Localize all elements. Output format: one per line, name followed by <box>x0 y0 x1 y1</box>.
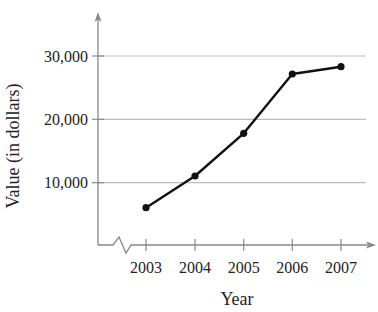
axis-break-icon <box>98 237 368 253</box>
data-point-2006 <box>289 70 296 77</box>
x-axis-title: Year <box>220 289 253 309</box>
y-axis <box>92 12 104 245</box>
data-line <box>146 67 341 208</box>
y-axis-title: Value (in dollars) <box>3 84 24 209</box>
x-tick-label: 2006 <box>276 259 308 276</box>
series-value <box>142 63 344 211</box>
x-tick-label: 2005 <box>228 259 260 276</box>
x-tick-label: 2007 <box>325 259 357 276</box>
x-tick-label: 2003 <box>130 259 162 276</box>
data-point-2004 <box>191 172 198 179</box>
y-tick-label: 20,000 <box>44 111 88 128</box>
line-chart: 30,000 20,000 10,000 2003 2004 2005 2006… <box>0 0 378 312</box>
x-tick-labels: 2003 2004 2005 2006 2007 <box>130 259 357 276</box>
x-tick-label: 2004 <box>179 259 211 276</box>
data-point-2007 <box>337 63 344 70</box>
y-tick-label: 30,000 <box>44 48 88 65</box>
y-tick-labels: 30,000 20,000 10,000 <box>44 48 88 192</box>
y-tick-label: 10,000 <box>44 174 88 191</box>
data-point-2003 <box>142 204 149 211</box>
gridlines <box>98 56 366 183</box>
data-point-2005 <box>240 130 247 137</box>
x-axis <box>98 237 376 253</box>
